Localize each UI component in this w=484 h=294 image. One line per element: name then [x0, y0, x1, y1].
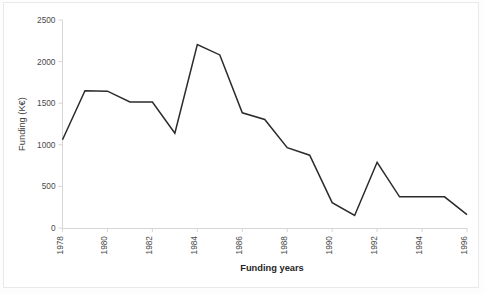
x-tick-label: 1984 [189, 236, 199, 255]
y-tick-label: 1000 [37, 140, 56, 150]
x-tick-label: 1988 [279, 236, 289, 255]
y-axis-ticks [59, 20, 63, 228]
x-tick-label: 1986 [234, 236, 244, 255]
x-tick-label: 1980 [99, 236, 109, 255]
x-tick-label: 1990 [324, 236, 334, 255]
x-axis-tick-labels: 1978198019821984198619881990199219941996 [55, 236, 470, 255]
funding-line-chart: 05001000150020002500 1978198019821984198… [0, 0, 484, 294]
funding-series-line [63, 45, 468, 216]
x-tick-label: 1996 [459, 236, 469, 255]
y-tick-label: 2500 [37, 15, 56, 25]
x-axis-title: Funding years [240, 263, 304, 273]
y-tick-label: 500 [42, 181, 56, 191]
y-axis-tick-labels: 05001000150020002500 [37, 15, 56, 233]
x-tick-label: 1994 [414, 236, 424, 255]
y-tick-label: 2000 [37, 57, 56, 67]
y-tick-label: 0 [51, 223, 56, 233]
chart-figure: 05001000150020002500 1978198019821984198… [0, 0, 484, 294]
x-tick-label: 1978 [55, 236, 65, 255]
y-axis-title: Funding (K€) [17, 97, 27, 151]
y-tick-label: 1500 [37, 98, 56, 108]
x-tick-label: 1982 [144, 236, 154, 255]
x-tick-label: 1992 [369, 236, 379, 255]
